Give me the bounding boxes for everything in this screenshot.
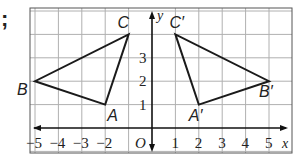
x-tick-label: 5 (265, 135, 273, 151)
grid-lines (30, 8, 292, 153)
x-tick-label: −5 (26, 135, 42, 151)
y-tick-label: 2 (139, 73, 147, 89)
y-axis-arrow-down-icon (149, 144, 155, 152)
vertex-label: C (118, 14, 130, 31)
y-tick-label: 1 (139, 97, 147, 113)
labels: −5−4−3−212345123OxyABCA′B′C′ (17, 8, 289, 151)
y-axis-arrow-up-icon (149, 11, 155, 19)
vertex-label: A′ (188, 107, 204, 124)
x-axis-label: x (281, 136, 289, 151)
coordinate-plane: −5−4−3−212345123OxyABCA′B′C′ (0, 0, 294, 156)
x-tick-label: −3 (73, 135, 89, 151)
graph-border (30, 8, 292, 153)
x-tick-label: −2 (96, 135, 112, 151)
vertex-label: B′ (259, 83, 274, 100)
x-axis-arrow-left-icon (33, 125, 41, 131)
x-tick-label: 4 (242, 135, 250, 151)
x-tick-label: 2 (195, 135, 203, 151)
y-axis-label: y (155, 8, 164, 23)
x-axis-arrow-right-icon (280, 125, 288, 131)
x-tick-label: −4 (49, 135, 65, 151)
x-tick-label: 1 (171, 135, 179, 151)
origin-label: O (135, 135, 146, 151)
x-tick-label: 3 (218, 135, 226, 151)
vertex-label: B (17, 81, 28, 98)
y-tick-label: 3 (139, 50, 147, 66)
vertex-label: C′ (169, 14, 185, 31)
vertex-label: A (106, 107, 118, 124)
